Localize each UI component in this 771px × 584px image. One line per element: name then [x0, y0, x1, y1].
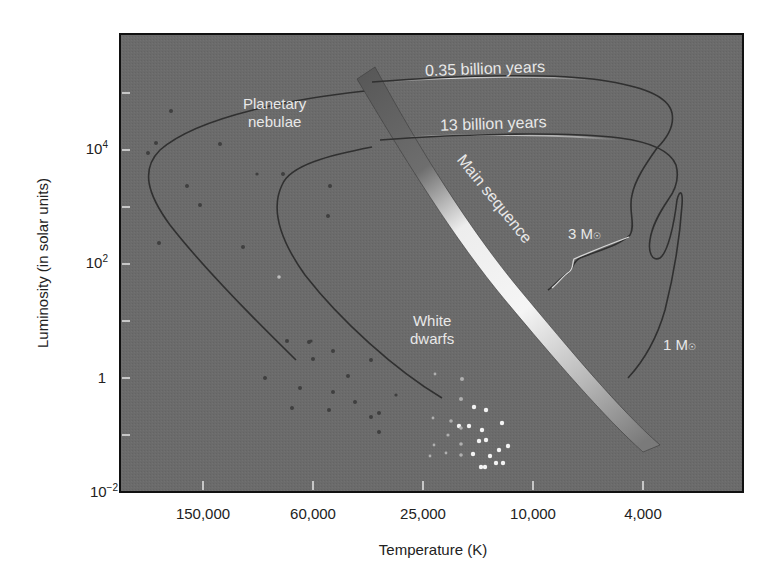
- annotation-line: White: [410, 312, 454, 330]
- x-tick-label-10000: 10,000: [510, 505, 556, 522]
- y-tick-exp: 4: [102, 139, 108, 150]
- y-tick-label-1e2: 102: [58, 253, 108, 271]
- faint-star-point: [277, 275, 281, 279]
- y-tick-base: 10: [86, 254, 103, 271]
- y-tick-exp: −2: [107, 482, 118, 493]
- y-tick-base: 1: [98, 369, 106, 386]
- plot-area: [120, 34, 743, 492]
- annotation-13-billion-years: 13 billion years: [440, 113, 547, 135]
- mass-label: 1 M: [663, 336, 688, 353]
- y-axis-title: Luminosity (in solar units): [34, 178, 51, 348]
- x-tick-label-60000: 60,000: [290, 505, 336, 522]
- annotation-line: nebulae: [243, 113, 306, 131]
- y-tick-label-1em2: 10−2: [62, 482, 118, 500]
- y-tick-label-1e4: 104: [58, 139, 108, 157]
- x-tick-label-25000: 25,000: [400, 505, 446, 522]
- annotation-white-dwarfs: White dwarfs: [410, 312, 454, 348]
- sun-symbol-icon: ☉: [688, 342, 696, 352]
- x-tick-label-4000: 4,000: [624, 505, 662, 522]
- y-tick-base: 10: [90, 483, 107, 500]
- y-tick-base: 10: [86, 140, 103, 157]
- annotation-planetary-nebulae: Planetary nebulae: [243, 95, 306, 131]
- x-tick-label-150000: 150,000: [176, 505, 230, 522]
- annotation-line: dwarfs: [410, 330, 454, 348]
- sun-symbol-icon: ☉: [593, 231, 601, 241]
- mass-label: 3 M: [568, 225, 593, 242]
- annotation-3-solar-masses: 3 M☉: [568, 225, 601, 245]
- annotation-line: Planetary: [243, 95, 306, 113]
- x-axis-title: Temperature (K): [379, 541, 487, 558]
- y-tick-label-1: 1: [56, 369, 106, 386]
- annotation-1-solar-mass: 1 M☉: [663, 336, 696, 356]
- y-tick-exp: 2: [102, 253, 108, 264]
